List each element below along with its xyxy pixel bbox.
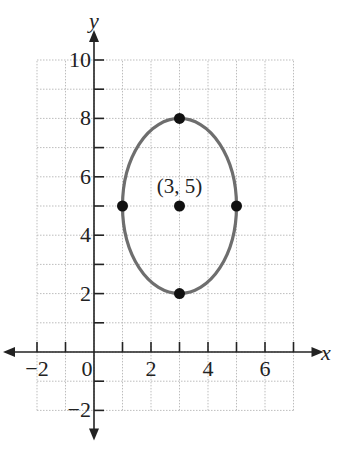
point <box>231 201 242 212</box>
ellipse-graph: −20246−2246810 (3, 5) x y <box>0 0 349 464</box>
point <box>174 113 185 124</box>
y-tick-label: 10 <box>69 47 91 72</box>
y-axis-label: y <box>87 8 99 33</box>
y-tick-label: −2 <box>68 397 91 422</box>
point <box>174 201 185 212</box>
x-tick-label: −2 <box>25 356 48 381</box>
y-tick-label: 4 <box>80 222 91 247</box>
center-label: (3, 5) <box>157 174 203 198</box>
point <box>174 288 185 299</box>
y-axis-arrow-down-icon <box>89 428 99 440</box>
x-tick-label: 2 <box>146 356 157 381</box>
y-tick-label: 6 <box>80 164 91 189</box>
x-axis-arrow-left-icon <box>3 347 15 357</box>
point <box>117 201 128 212</box>
x-tick-label: 4 <box>203 356 214 381</box>
grid <box>37 60 294 410</box>
x-axis-label: x <box>320 340 331 365</box>
annotations: (3, 5) <box>157 174 203 198</box>
ticks <box>37 60 294 410</box>
x-tick-label: 6 <box>260 356 271 381</box>
y-tick-label: 8 <box>80 105 91 130</box>
x-tick-label: 0 <box>82 356 93 381</box>
y-tick-label: 2 <box>80 281 91 306</box>
